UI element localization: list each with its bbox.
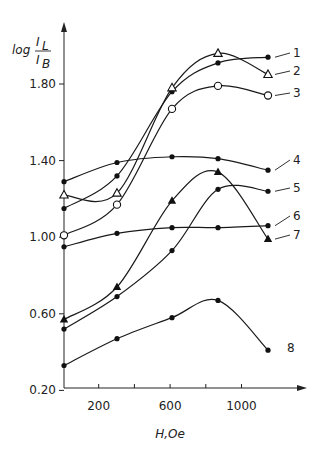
open-circle-marker-icon <box>168 105 175 112</box>
series-6: 6 <box>61 209 300 249</box>
series-1: 1 <box>61 46 300 211</box>
filled-circle-marker-icon <box>61 327 66 332</box>
filled-triangle-marker-icon <box>60 315 68 323</box>
x-tick-label: 1000 <box>226 399 257 413</box>
y-axis-label-denominator: I <box>36 53 40 67</box>
filled-circle-marker-icon <box>169 154 174 159</box>
y-axis-label-denominator-sub: B <box>42 57 50 71</box>
series-label: 3 <box>293 86 301 100</box>
leader-line <box>275 93 290 95</box>
leader-line <box>275 216 290 226</box>
y-tick-label: 1.00 <box>29 230 56 244</box>
open-circle-marker-icon <box>113 201 120 208</box>
open-triangle-marker-icon <box>264 70 272 78</box>
filled-circle-marker-icon <box>215 60 220 65</box>
open-circle-marker-icon <box>264 92 271 99</box>
filled-circle-marker-icon <box>169 315 174 320</box>
series-label: 1 <box>293 46 301 60</box>
filled-circle-marker-icon <box>215 298 220 303</box>
y-tick-label: 0.20 <box>29 383 56 397</box>
filled-circle-marker-icon <box>61 244 66 249</box>
x-tick-label: 200 <box>87 399 110 413</box>
filled-circle-marker-icon <box>265 189 270 194</box>
filled-circle-marker-icon <box>114 173 119 178</box>
y-tick-label: 0.60 <box>29 307 56 321</box>
leader-line <box>275 235 290 239</box>
y-tick-label: 1.40 <box>29 154 56 168</box>
x-axis-label: H,Oe <box>155 427 185 441</box>
curve-line <box>64 226 268 247</box>
series-label: 7 <box>293 228 301 242</box>
axes: 0.200.601.001.401.802006001000 <box>29 22 307 413</box>
curve-line <box>64 53 268 201</box>
y-axis-label-prefix: log <box>12 43 31 57</box>
series-label: 8 <box>287 341 295 355</box>
filled-circle-marker-icon <box>114 294 119 299</box>
leader-line <box>275 53 290 57</box>
filled-circle-marker-icon <box>215 225 220 230</box>
filled-circle-marker-icon <box>114 160 119 165</box>
y-axis-label-numerator: I <box>36 35 40 49</box>
filled-circle-marker-icon <box>265 55 270 60</box>
leader-line <box>275 188 290 191</box>
series-3: 3 <box>60 82 300 239</box>
filled-circle-marker-icon <box>61 206 66 211</box>
leader-line <box>275 71 290 74</box>
open-circle-marker-icon <box>60 232 67 239</box>
open-circle-marker-icon <box>214 82 221 89</box>
open-triangle-marker-icon <box>60 191 68 199</box>
filled-circle-marker-icon <box>114 231 119 236</box>
series-8: 8 <box>61 298 294 368</box>
filled-circle-marker-icon <box>169 225 174 230</box>
series-2: 2 <box>60 49 301 202</box>
curves: 12345678 <box>60 46 301 368</box>
filled-circle-marker-icon <box>61 363 66 368</box>
series-label: 2 <box>293 64 301 78</box>
x-tick-label: 600 <box>159 399 182 413</box>
curve-line <box>64 156 268 181</box>
y-tick-label: 1.80 <box>29 77 56 91</box>
series-label: 5 <box>293 181 301 195</box>
series-label: 6 <box>293 209 301 223</box>
filled-circle-marker-icon <box>265 223 270 228</box>
filled-circle-marker-icon <box>169 248 174 253</box>
curve-line <box>64 185 268 329</box>
line-chart: 0.200.601.001.401.802006001000 12345678 … <box>0 0 321 453</box>
curve-line <box>64 299 268 365</box>
filled-circle-marker-icon <box>61 179 66 184</box>
series-label: 4 <box>293 153 301 167</box>
filled-circle-marker-icon <box>215 187 220 192</box>
filled-circle-marker-icon <box>265 168 270 173</box>
filled-circle-marker-icon <box>114 336 119 341</box>
x-axis-arrow-icon <box>297 385 307 391</box>
y-axis-arrow-icon <box>61 22 67 32</box>
series-5: 5 <box>61 181 300 332</box>
leader-line <box>275 160 290 170</box>
series-4: 4 <box>61 153 300 184</box>
filled-circle-marker-icon <box>215 156 220 161</box>
filled-circle-marker-icon <box>265 348 270 353</box>
curve-line <box>64 86 268 236</box>
